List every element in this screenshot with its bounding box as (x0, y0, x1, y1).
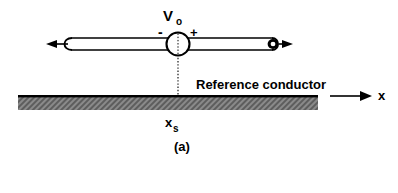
diagram-canvas (0, 0, 398, 193)
reference-conductor-label: Reference conductor (196, 78, 326, 91)
source-position-subscript: s (173, 124, 179, 134)
x-axis-label: x (378, 89, 385, 102)
x-axis-arrow (330, 91, 372, 101)
right-terminal-and-arrow (268, 39, 293, 49)
reference-conductor-bar (18, 95, 318, 110)
source-position-label: x (165, 116, 172, 129)
polarity-negative-label: - (158, 25, 163, 39)
figure-caption: (a) (174, 140, 190, 153)
voltage-source-label: V (163, 8, 173, 23)
voltage-source-subscript: o (176, 17, 182, 27)
figure-transmission-line-diagram: V o - + Reference conductor x s x (a) (0, 0, 398, 193)
voltage-source-symbol (167, 33, 190, 56)
polarity-positive-label: + (190, 26, 198, 39)
